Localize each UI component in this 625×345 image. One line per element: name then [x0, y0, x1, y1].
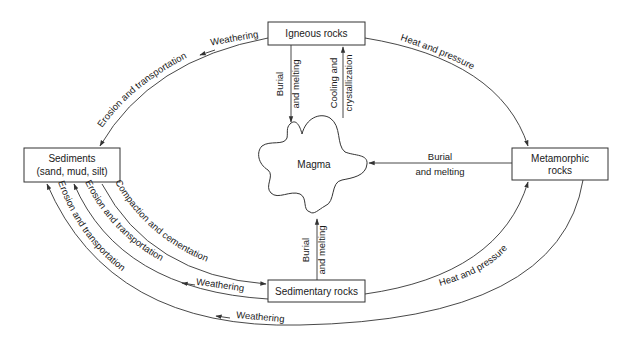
sedimentary-rocks-label: Sedimentary rocks — [275, 286, 358, 297]
label-igneous-erosion: Erosion and transportation — [95, 50, 188, 130]
label-sedimentary-burial-line2: and melting — [316, 225, 327, 274]
metamorphic-label-line2: rocks — [548, 165, 572, 176]
node-sediments: Sediments (sand, mud, silt) — [24, 148, 120, 182]
label-cooling-line2: crystallization — [343, 54, 354, 111]
label-igneous-burial-line1: Burial — [274, 72, 285, 96]
label-metamorphic-burial-line1: Burial — [428, 151, 452, 162]
label-igneous-weathering: Weathering — [209, 28, 259, 47]
sediments-label-line2: (sand, mud, silt) — [36, 166, 107, 177]
label-cooling-line1: Cooling and — [328, 58, 339, 109]
igneous-rocks-label: Igneous rocks — [285, 28, 347, 39]
label-igneous-erosion-path: Erosion and transportation — [95, 50, 188, 130]
label-metamorphic-burial-line2: and melting — [415, 166, 464, 177]
node-sedimentary-rocks: Sedimentary rocks — [268, 280, 365, 302]
label-metamorphic-weathering: Weathering — [236, 309, 285, 324]
node-metamorphic-rocks: Metamorphic rocks — [512, 148, 608, 180]
node-igneous-rocks: Igneous rocks — [268, 22, 365, 45]
metamorphic-label-line1: Metamorphic — [531, 153, 589, 164]
magma-label: Magma — [297, 159, 331, 170]
label-sedimentary-heat-pressure-path: Heat and pressure — [438, 242, 509, 288]
sediments-label-line1: Sediments — [48, 153, 95, 164]
edge-metamorphic-to-sediments-mid-arrow — [216, 316, 230, 318]
label-sedimentary-heat-pressure: Heat and pressure — [438, 242, 509, 288]
rock-cycle-diagram: Magma Igneous rocks Sediments (sand, mud… — [0, 0, 625, 345]
label-sedimentary-burial-line1: Burial — [300, 238, 311, 262]
label-igneous-heat-pressure-path: Heat and pressure — [399, 32, 476, 72]
label-sedimentary-weathering: Weathering — [196, 276, 245, 294]
edge-igneous-to-sediments-mid-arrow — [200, 50, 215, 55]
label-igneous-heat-pressure: Heat and pressure — [399, 32, 476, 72]
label-igneous-burial-line2: and melting — [290, 59, 301, 108]
